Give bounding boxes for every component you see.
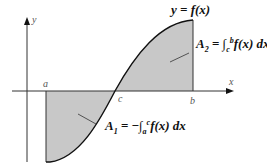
y-axis-label: y — [32, 14, 36, 25]
x-axis-arrow-icon — [226, 88, 234, 94]
point-b-label: b — [190, 95, 195, 106]
curve-label: y = f(x) — [171, 2, 210, 18]
area-1-formula: A1 = −∫acf(x) dx — [105, 118, 186, 136]
point-c-label: c — [118, 93, 122, 104]
area-2-formula: A2 = ∫cbf(x) dx — [196, 36, 267, 54]
y-axis-arrow-icon — [24, 17, 30, 25]
point-a-label: a — [43, 78, 48, 89]
region-a2 — [115, 20, 193, 91]
area-diagram — [0, 0, 267, 168]
x-axis-label: x — [229, 76, 233, 87]
